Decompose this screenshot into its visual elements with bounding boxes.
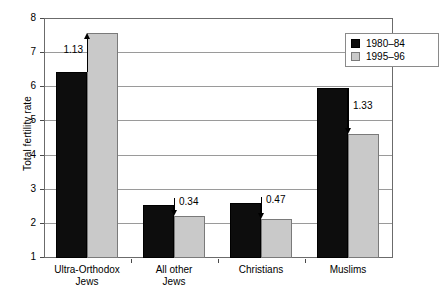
x-category-label-christians: Christians bbox=[217, 264, 305, 276]
legend-item-1980-84: 1980–84 bbox=[351, 37, 433, 50]
y-tick-label-5: 5 bbox=[6, 115, 36, 125]
y-tick-label-6: 6 bbox=[6, 81, 36, 91]
x-category-line-2: Jews bbox=[130, 276, 218, 288]
x-category-line-2: Jews bbox=[42, 276, 132, 288]
arrow-down-icon bbox=[345, 128, 351, 134]
arrow-down-icon bbox=[171, 210, 177, 216]
legend-item-1995-96: 1995–96 bbox=[351, 50, 433, 63]
x-tick-mark-3 bbox=[305, 259, 306, 263]
x-category-label-all-other-jews: All other Jews bbox=[130, 264, 218, 288]
legend-swatch-light-icon bbox=[351, 52, 360, 61]
y-tick-label-7: 7 bbox=[6, 47, 36, 57]
plot-area: 1.13 0.34 0.47 1.33 1980–84 bbox=[44, 18, 393, 258]
y-tick-label-4: 4 bbox=[6, 150, 36, 160]
x-category-line-1: All other bbox=[130, 264, 218, 276]
arrow-up-icon bbox=[84, 33, 90, 39]
legend-swatch-dark-icon bbox=[351, 39, 360, 48]
y-tick-label-8: 8 bbox=[6, 13, 36, 23]
arrow-down-icon bbox=[258, 213, 264, 219]
annotation-value-all-other-jews: 0.34 bbox=[179, 197, 198, 207]
bar-ultra-orthodox-jews-1995-96 bbox=[87, 33, 118, 258]
bar-all-other-jews-1980-84 bbox=[143, 205, 174, 258]
x-category-label-muslims: Muslims bbox=[304, 264, 392, 276]
x-tick-mark-1 bbox=[131, 259, 132, 263]
legend-label-1995-96: 1995–96 bbox=[366, 52, 405, 62]
bar-muslims-1980-84 bbox=[317, 88, 348, 258]
bar-ultra-orthodox-jews-1980-84 bbox=[56, 72, 87, 258]
x-category-line-1: Christians bbox=[217, 264, 305, 276]
bar-christians-1980-84 bbox=[230, 203, 261, 258]
bar-all-other-jews-1995-96 bbox=[174, 216, 205, 258]
y-tick-label-2: 2 bbox=[6, 218, 36, 228]
x-category-line-1: Muslims bbox=[304, 264, 392, 276]
x-category-label-ultra-orthodox-jews: Ultra-Orthodox Jews bbox=[42, 264, 132, 288]
bar-muslims-1995-96 bbox=[348, 134, 379, 258]
annotation-line bbox=[87, 39, 88, 72]
annotation-value-muslims: 1.33 bbox=[353, 101, 372, 111]
bar-christians-1995-96 bbox=[261, 219, 292, 258]
legend: 1980–84 1995–96 bbox=[345, 33, 439, 67]
annotation-value-ultra-orthodox-jews: 1.13 bbox=[64, 45, 83, 55]
x-category-line-1: Ultra-Orthodox bbox=[42, 264, 132, 276]
annotation-line bbox=[174, 198, 175, 210]
x-tick-mark-2 bbox=[218, 259, 219, 263]
y-tick-label-3: 3 bbox=[6, 184, 36, 194]
annotation-line bbox=[261, 197, 262, 213]
annotation-value-christians: 0.47 bbox=[266, 195, 285, 205]
annotation-line bbox=[348, 88, 349, 128]
legend-label-1980-84: 1980–84 bbox=[366, 39, 405, 49]
y-tick-label-1: 1 bbox=[6, 252, 36, 262]
